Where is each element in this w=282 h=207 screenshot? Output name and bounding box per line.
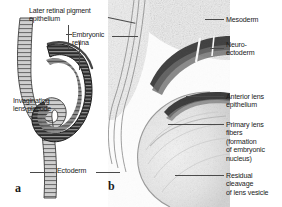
label-embryonic-retina: Embryonic retina xyxy=(72,31,104,48)
label-mesoderm: Mesoderm xyxy=(226,16,258,24)
leader-ectoderm-right xyxy=(96,172,120,173)
leader-neuro-ectoderm xyxy=(210,48,224,49)
embryology-figure: Later retinal pigment epithelium Embryon… xyxy=(0,0,282,207)
label-anterior-lens-epithelium: Anterior lens epithelium xyxy=(226,93,264,110)
leader-anterior-lens-epithelium xyxy=(186,96,224,97)
label-ectoderm: Ectoderm xyxy=(57,167,86,175)
panel-a-letter: a xyxy=(15,181,21,196)
leader-residual-cleavage xyxy=(175,175,224,176)
panel-b-letter: b xyxy=(108,179,115,194)
leader-mesoderm xyxy=(205,19,224,20)
label-invaginating-lens-placode: Invaginating lens placode xyxy=(13,97,51,114)
leader-embryonic-retina-to-b xyxy=(112,36,138,37)
leader-later-rpe-drop xyxy=(68,25,69,49)
leader-primary-lens-fibers xyxy=(168,124,224,125)
label-residual-cleavage-of-lens-vesicle: Residual cleavage of lens vesicle xyxy=(226,172,268,197)
leader-ectoderm-left xyxy=(30,172,54,173)
label-neuro-ectoderm: Neuro- ectoderm xyxy=(226,41,254,58)
label-primary-lens-fibers: Primary lens fibers (formation of embryo… xyxy=(226,121,265,163)
label-later-retinal-pigment-epithelium: Later retinal pigment epithelium xyxy=(29,7,91,24)
